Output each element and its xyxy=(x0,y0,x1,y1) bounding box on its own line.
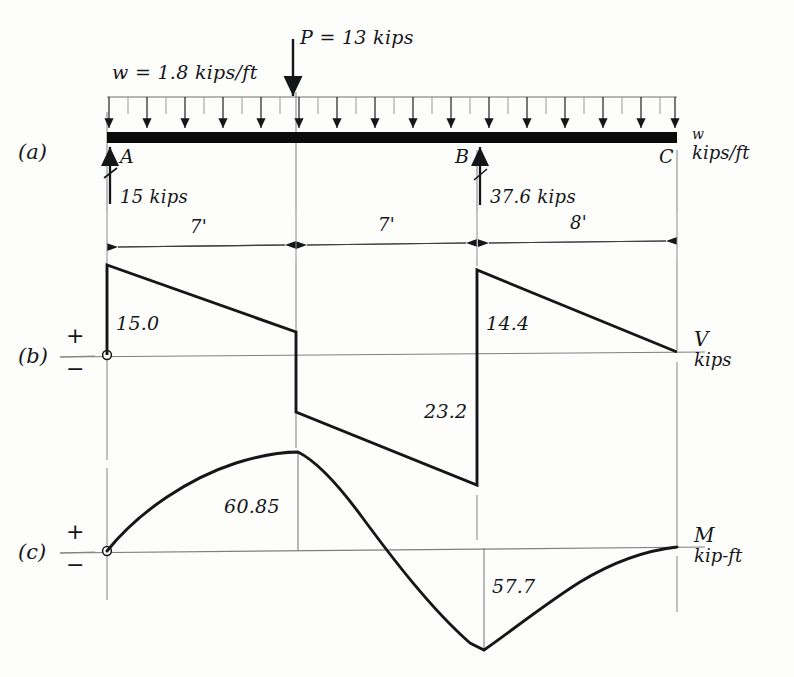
node-label-b: B xyxy=(455,145,469,167)
reaction-label-b: 37.6 kips xyxy=(490,186,576,207)
moment-axis-label: M kip-ft xyxy=(694,524,742,567)
moment-value-60-85: 60.85 xyxy=(224,495,280,517)
moment-axis-symbol: M xyxy=(694,524,742,546)
panel-tag-a: (a) xyxy=(18,140,47,164)
moment-diagram-group xyxy=(60,452,705,650)
shear-diagram-group xyxy=(60,265,705,485)
point-load-label: P = 13 kips xyxy=(300,26,414,48)
moment-axis-units: kip-ft xyxy=(694,546,742,566)
shear-axis-label: V kips xyxy=(694,328,731,371)
shear-axis-symbol: V xyxy=(694,328,731,350)
beam-units-kips-ft: kips/ft xyxy=(692,143,749,163)
reaction-label-a: 15 kips xyxy=(120,186,188,207)
diagram-canvas xyxy=(0,0,794,677)
shear-value-15: 15.0 xyxy=(116,312,160,334)
shear-value-23-2: 23.2 xyxy=(424,400,468,422)
span-label-1: 7' xyxy=(190,216,207,237)
node-label-a: A xyxy=(120,145,134,167)
distributed-load-label: w = 1.8 kips/ft xyxy=(112,61,258,83)
loading-diagram-group xyxy=(104,39,677,612)
beam-bar xyxy=(107,132,677,143)
shear-baseline xyxy=(60,352,705,357)
moment-baseline xyxy=(60,547,705,553)
udl-rail-ticks xyxy=(128,97,660,114)
figure-sheet: (a) (b) (c) w = 1.8 kips/ft P = 13 kips … xyxy=(0,0,794,677)
udl-arrows xyxy=(109,97,675,128)
moment-plus-sign: + xyxy=(66,521,84,543)
moment-value-57-7: 57.7 xyxy=(492,575,536,597)
dimension-line xyxy=(118,241,666,247)
node-label-c: C xyxy=(659,145,674,167)
shear-value-14-4: 14.4 xyxy=(486,312,530,334)
shear-minus-sign: − xyxy=(66,358,84,380)
shear-plus-sign: + xyxy=(66,325,84,347)
moment-minus-sign: − xyxy=(66,554,84,576)
moment-curve xyxy=(107,452,677,650)
shear-axis-units: kips xyxy=(694,350,731,370)
station-lines xyxy=(107,92,677,612)
beam-units-w: w xyxy=(692,127,749,143)
span-label-3: 8' xyxy=(570,212,587,233)
panel-tag-c: (c) xyxy=(18,540,46,564)
span-label-2: 7' xyxy=(378,214,395,235)
shear-curve xyxy=(107,265,677,485)
panel-tag-b: (b) xyxy=(18,344,48,368)
beam-units-label: w kips/ft xyxy=(692,127,749,163)
